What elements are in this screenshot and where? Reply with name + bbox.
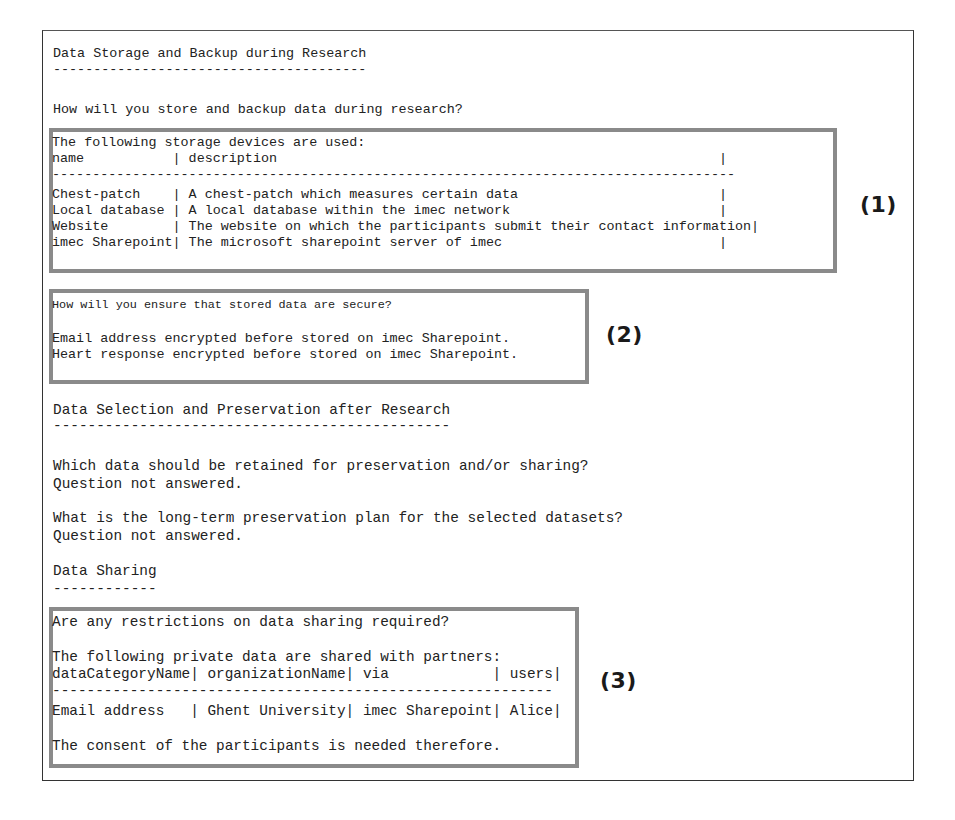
section-title-sharing: Data Sharing (53, 563, 157, 579)
sharing-intro: The following private data are shared wi… (52, 649, 501, 665)
section-underline-storage: --------------------------------------- (53, 62, 366, 78)
sharing-table-separator: ----------------------------------------… (52, 683, 553, 699)
answer-preservation-plan: Question not answered. (53, 528, 243, 544)
storage-table-separator: ----------------------------------------… (52, 167, 735, 183)
storage-table-row: Chest-patch | A chest-patch which measur… (52, 187, 727, 203)
sharing-consent-note: The consent of the participants is neede… (52, 738, 501, 754)
storage-table-row: Local database | A local database within… (52, 203, 727, 219)
storage-table-row: imec Sharepoint| The microsoft sharepoin… (52, 235, 727, 251)
section-title-preservation: Data Selection and Preservation after Re… (53, 402, 450, 418)
section-title-storage: Data Storage and Backup during Research (53, 46, 366, 62)
annotation-label-2: (2) (606, 322, 643, 347)
sharing-restrictions-question: Are any restrictions on data sharing req… (52, 614, 449, 630)
section-underline-preservation: ----------------------------------------… (53, 418, 450, 434)
annotation-label-1: (1) (860, 192, 897, 217)
security-answer: Heart response encrypted before stored o… (52, 347, 518, 363)
question-storage: How will you store and backup data durin… (53, 102, 463, 118)
question-preservation-plan: What is the long-term preservation plan … (53, 510, 623, 526)
section-underline-sharing: ------------ (53, 581, 157, 597)
security-question: How will you ensure that stored data are… (52, 297, 392, 313)
question-retained-data: Which data should be retained for preser… (53, 458, 588, 474)
storage-intro: The following storage devices are used: (52, 135, 365, 151)
storage-table-header: name | description | (52, 151, 727, 167)
sharing-table-row: Email address | Ghent University| imec S… (52, 703, 562, 719)
answer-retained-data: Question not answered. (53, 476, 243, 492)
security-answer: Email address encrypted before stored on… (52, 331, 510, 347)
annotation-label-3: (3) (600, 668, 637, 693)
storage-table-row: Website | The website on which the parti… (52, 219, 759, 235)
sharing-table-header: dataCategoryName| organizationName| via … (52, 666, 562, 682)
